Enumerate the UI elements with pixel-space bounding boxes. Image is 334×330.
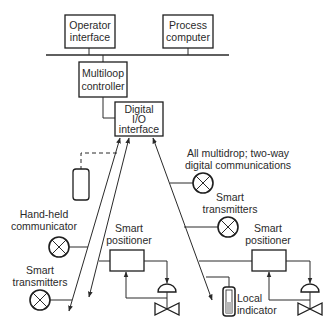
transmitter-icon: [218, 217, 238, 237]
annotation-line-2: digital communications: [185, 159, 291, 171]
smart-transmitters-left-label-1: Smart: [26, 264, 54, 276]
multiloop-controller-box: Multiloop controller: [79, 62, 127, 97]
local-indicator: Local indicator: [206, 277, 277, 316]
network-diagram: Operator interface Process computer Mult…: [0, 0, 334, 330]
operator-interface-box: Operator interface: [65, 15, 115, 48]
smart-transmitter-right-1: [170, 173, 213, 193]
controller-io-link: [103, 97, 115, 118]
smart-positioner-left-label-1: Smart: [115, 222, 143, 234]
transmitter-icon: [30, 290, 50, 310]
local-indicator-label-1: Local: [237, 292, 262, 304]
transmitter-icon: [193, 173, 213, 193]
smart-positioner-right-label-2: positioner: [245, 234, 291, 246]
operator-interface-label-2: interface: [70, 31, 110, 43]
smart-positioner-left-label-2: positioner: [106, 234, 152, 246]
smart-transmitter-left-1: [49, 237, 88, 257]
smart-transmitters-left-label-2: transmitters: [13, 276, 68, 288]
smart-transmitter-left-2: [30, 290, 72, 310]
smart-transmitters-right-label-1: Smart: [216, 191, 244, 203]
multiloop-controller-label-2: controller: [81, 80, 125, 92]
smart-transmitters-right-label-2: transmitters: [203, 203, 258, 215]
hand-held-communicator-icon: [73, 169, 89, 200]
multiloop-controller-label-1: Multiloop: [82, 67, 124, 79]
smart-positioner-right-label-1: Smart: [254, 222, 282, 234]
digital-io-label-3: interface: [119, 123, 159, 135]
digital-io-interface-box: Digital I/O interface: [115, 102, 163, 136]
smart-positioner-left: [99, 250, 179, 315]
control-valve-icon: [155, 284, 179, 315]
process-computer-box: Process computer: [163, 15, 213, 48]
transmitter-icon: [49, 237, 69, 257]
local-indicator-label-2: indicator: [237, 304, 277, 316]
multidrop-line-left-2: [89, 138, 129, 297]
operator-interface-label-1: Operator: [69, 19, 111, 31]
process-computer-label-1: Process: [169, 19, 207, 31]
process-computer-label-2: computer: [166, 31, 210, 43]
smart-transmitter-right-2: [184, 217, 238, 237]
hand-held-dashed-link: [81, 153, 118, 170]
annotation-line-1: All multidrop; two-way: [187, 147, 290, 159]
hand-held-communicator: Hand-held communicator: [11, 153, 118, 232]
hand-held-label-2: communicator: [11, 220, 77, 232]
hand-held-label-1: Hand-held: [20, 208, 69, 220]
local-indicator-icon: [223, 287, 235, 316]
